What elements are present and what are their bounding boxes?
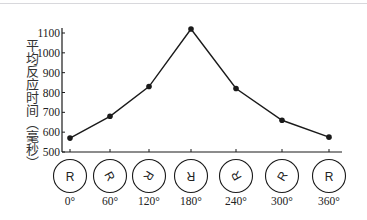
y-tick-label: 800: [43, 87, 61, 99]
x-category-label: 0°: [65, 195, 76, 207]
x-category-label: 180°: [180, 195, 202, 207]
y-tick-label: 600: [43, 126, 61, 138]
stimulus-letter: R: [101, 169, 118, 184]
data-point: [146, 84, 152, 90]
line-chart: 50060070080090010001100R0°R60°R120°R180°…: [0, 0, 367, 220]
x-category-label: 240°: [225, 195, 247, 207]
data-line: [70, 29, 329, 138]
data-point: [188, 26, 194, 32]
x-category-label: 360°: [318, 195, 340, 207]
stimulus-letter: R: [186, 169, 195, 183]
y-tick-label: 700: [43, 106, 61, 118]
data-point: [67, 135, 73, 141]
data-point: [233, 86, 239, 92]
x-category-label: 120°: [138, 195, 160, 207]
y-tick-label: 1100: [37, 27, 60, 39]
stimulus-letter: R: [325, 170, 334, 184]
x-category-label: 60°: [102, 195, 119, 207]
stimulus-letter: R: [274, 169, 291, 184]
data-point: [326, 134, 332, 140]
y-tick-label: 900: [43, 67, 61, 79]
stimulus-letter: R: [140, 168, 157, 183]
data-point: [107, 114, 113, 120]
stimulus-letter: R: [228, 168, 245, 183]
y-tick-label: 1000: [37, 47, 60, 59]
data-point: [279, 117, 285, 123]
x-category-label: 300°: [271, 195, 293, 207]
stimulus-letter: R: [66, 170, 75, 184]
y-tick-label: 500: [43, 146, 61, 158]
